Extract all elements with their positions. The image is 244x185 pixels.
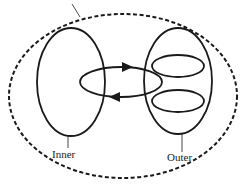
exchange-loop	[80, 67, 162, 97]
arrow-right-icon	[122, 62, 133, 72]
arrow-left-icon	[109, 92, 120, 102]
environment-boundary	[9, 14, 237, 178]
outer-region-ellipse	[144, 28, 212, 134]
outer-sub-ellipse-2	[152, 90, 204, 112]
inner-region-ellipse	[37, 28, 105, 136]
outer-label: Outer	[167, 151, 192, 163]
outer-sub-ellipse-1	[152, 55, 204, 77]
diagram-canvas	[0, 0, 244, 185]
top-leader-line	[72, 4, 80, 17]
inner-label: Inner	[52, 148, 75, 160]
